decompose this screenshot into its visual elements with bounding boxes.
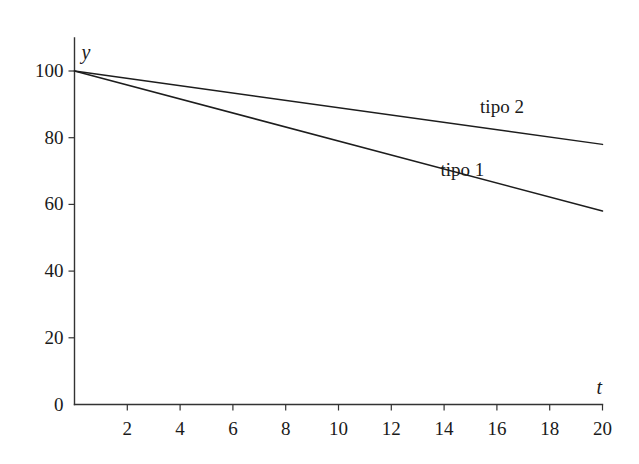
x-tick-label: 4 [160, 419, 200, 438]
x-tick-label: 8 [266, 419, 306, 438]
series-label-tipo-1: tipo 1 [441, 160, 485, 179]
series-label-tipo-2: tipo 2 [480, 97, 524, 116]
ticks-group [69, 71, 603, 411]
x-axis-label: t [597, 377, 603, 397]
y-tick-label: 100 [35, 61, 64, 80]
chart-plot-area [0, 0, 639, 464]
x-tick-label: 16 [477, 419, 517, 438]
x-tick-label: 20 [583, 419, 623, 438]
x-tick-label: 12 [371, 419, 411, 438]
y-tick-label: 0 [54, 395, 64, 414]
chart-figure: y t 020406080100 2468101214161820 tipo 2… [0, 0, 639, 464]
y-axis-label: y [82, 42, 91, 62]
y-tick-label: 40 [45, 261, 64, 280]
x-tick-label: 14 [424, 419, 464, 438]
y-tick-label: 60 [45, 194, 64, 213]
series-line-tipo-1 [75, 71, 603, 211]
axes-group [75, 38, 603, 405]
x-tick-label: 18 [530, 419, 570, 438]
y-tick-label: 80 [45, 128, 64, 147]
x-tick-label: 6 [213, 419, 253, 438]
series-group [75, 71, 603, 211]
x-tick-label: 2 [107, 419, 147, 438]
y-tick-label: 20 [45, 328, 64, 347]
x-tick-label: 10 [319, 419, 359, 438]
